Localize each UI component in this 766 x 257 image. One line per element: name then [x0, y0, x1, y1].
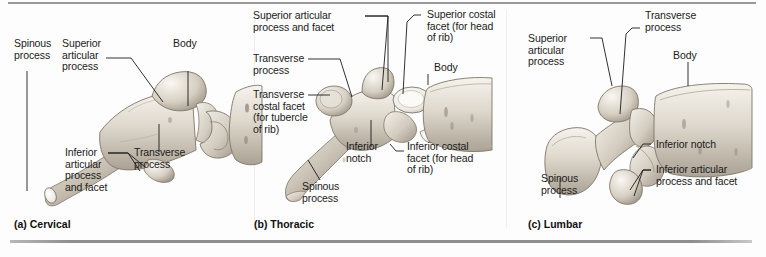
label-transverse-process: Transverse process	[645, 10, 696, 33]
label-inferior-articular-process-and-facet: Inferior articular process and facet	[65, 147, 107, 193]
label-inferior-costal-facet: Inferior costal facet (for head of rib)	[407, 141, 473, 176]
label-body: Body	[673, 50, 697, 62]
label-spinous-process: Spinous process	[541, 173, 578, 196]
caption-lumbar: (c) Lumbar	[528, 218, 582, 230]
panel-lumbar: Superior articular process Transverse pr…	[506, 0, 766, 257]
label-superior-costal-facet: Superior costal facet (for head of rib)	[427, 9, 496, 44]
panel-thoracic: Superior articular process and facet Tra…	[254, 0, 506, 257]
label-spinous-process: Spinous process	[14, 38, 51, 61]
label-transverse-process: Transverse process	[134, 147, 185, 170]
label-transverse-costal-facet: Transverse costal facet (for tubercle of…	[253, 89, 308, 135]
label-body: Body	[173, 38, 197, 50]
label-superior-articular-process: Superior articular process	[62, 38, 101, 73]
label-spinous-process: Spinous process	[302, 181, 339, 204]
caption-thoracic: (b) Thoracic	[254, 218, 314, 230]
label-superior-articular-process: Superior articular process	[528, 33, 567, 68]
label-body: Body	[434, 62, 458, 74]
label-inferior-notch: Inferior notch	[346, 141, 378, 164]
vertebrae-figure: Spinous process Superior articular proce…	[0, 0, 766, 257]
label-inferior-articular-process-and-facet: Inferior articular process and facet	[656, 164, 737, 187]
label-transverse-process: Transverse process	[253, 53, 304, 76]
caption-cervical: (a) Cervical	[14, 218, 71, 230]
panel-cervical: Spinous process Superior articular proce…	[0, 0, 254, 257]
label-inferior-notch: Inferior notch	[656, 139, 716, 151]
label-superior-articular-process-and-facet: Superior articular process and facet	[253, 10, 334, 33]
